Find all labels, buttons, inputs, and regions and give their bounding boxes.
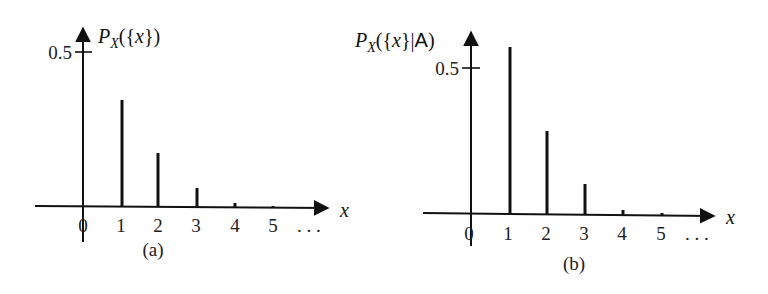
x-tick-label-a-2: 2 [153, 215, 163, 236]
x-tick-label-a-0: 0 [78, 215, 88, 236]
x-tick-label-a-1: 1 [116, 215, 126, 236]
caption-a: (a) [142, 239, 163, 261]
x-tick-label-b-4: 4 [617, 223, 627, 244]
x-axis-a [35, 206, 328, 208]
x-tick-label-b-2: 2 [541, 223, 551, 244]
x-tick-label-a-4: 4 [230, 215, 240, 236]
stems-a [122, 100, 273, 208]
y-tick-label-a: 0.5 [48, 42, 72, 63]
x-axis-title-a: x [339, 199, 349, 221]
x-ellipsis-b: . . . [685, 223, 709, 244]
stems-b [510, 47, 662, 215]
x-ellipsis-a: . . . [297, 215, 321, 236]
x-tick-label-b-3: 3 [579, 223, 589, 244]
x-tick-label-b-1: 1 [503, 223, 513, 244]
caption-b: (b) [563, 253, 585, 275]
x-tick-label-b-0: 0 [464, 223, 474, 244]
figure: 0.5 PX({x}) 0 1 2 3 4 5 . . . x (a) 0.5 … [0, 0, 768, 294]
x-tick-label-b-5: 5 [656, 223, 666, 244]
x-axis-b [423, 213, 714, 216]
x-axis-title-b: x [725, 206, 735, 228]
chart-a: 0.5 PX({x}) 0 1 2 3 4 5 . . . x (a) [35, 25, 349, 261]
y-tick-label-b: 0.5 [435, 58, 459, 79]
x-tick-label-a-3: 3 [191, 215, 201, 236]
chart-b: 0.5 PX({x}|A) 0 1 2 3 4 5 . . . x (b) [354, 29, 735, 275]
y-axis-title-b: PX({x}|A) [354, 29, 435, 55]
x-tick-label-a-5: 5 [268, 215, 278, 236]
y-axis-title-a: PX({x}) [97, 25, 160, 51]
